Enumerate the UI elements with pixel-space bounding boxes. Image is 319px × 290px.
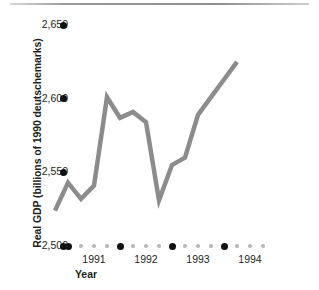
x-axis-title: Year — [75, 268, 97, 280]
series-line-real-gdp — [55, 62, 237, 211]
gdp-line-chart: Real GDP (billions of 1990 deutschemarks… — [0, 0, 319, 290]
x-tick-dot-major — [117, 243, 124, 250]
x-tick-dot-minor — [235, 244, 238, 247]
x-tick-dot-major — [169, 243, 176, 250]
x-tick-label-1993: 1993 — [186, 253, 209, 265]
x-tick-dot-minor — [157, 244, 160, 247]
x-tick-dot-major — [65, 243, 72, 250]
x-tick-dot-major — [221, 243, 228, 250]
x-tick-label-1992: 1992 — [134, 253, 157, 265]
x-tick-dot-minor — [209, 244, 212, 247]
x-tick-dot-minor — [92, 244, 95, 247]
x-tick-dot-minor — [105, 244, 108, 247]
x-tick-dot-minor — [131, 244, 134, 247]
x-tick-dot-minor — [144, 244, 147, 247]
x-tick-label-1994: 1994 — [238, 253, 261, 265]
x-tick-dot-minor — [261, 244, 264, 247]
x-tick-dot-minor — [79, 244, 82, 247]
x-tick-dot-minor — [196, 244, 199, 247]
x-tick-dot-minor — [183, 244, 186, 247]
x-tick-label-1991: 1991 — [82, 253, 105, 265]
x-tick-dot-minor — [248, 244, 251, 247]
